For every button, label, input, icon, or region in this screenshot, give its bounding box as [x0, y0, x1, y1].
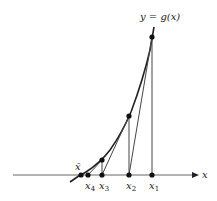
tangent-x2 [102, 116, 129, 175]
label-x2: x2 [126, 180, 136, 193]
tangent-x3 [88, 160, 102, 175]
curve-point-x2 [126, 113, 131, 118]
axis-point-x4 [85, 172, 90, 177]
diagram-canvas: x y = g(x) x̄ x4 x3 x2 x1 [0, 0, 217, 201]
newton-method-diagram: x y = g(x) x̄ x4 x3 x2 x1 [0, 0, 217, 201]
curve-point-x3 [99, 157, 104, 162]
label-x1: x1 [149, 180, 159, 193]
x-axis-arrow-icon [192, 172, 199, 178]
label-x3: x3 [99, 180, 109, 193]
axis-point-x2 [126, 172, 131, 177]
curve-label: y = g(x) [139, 11, 180, 22]
axis-point-x3 [99, 172, 104, 177]
x-axis-label: x [202, 169, 208, 180]
label-x4: x4 [85, 180, 96, 193]
curve-point-x1 [149, 34, 154, 39]
axis-point-x1 [149, 172, 154, 177]
axis-point-xbar [78, 172, 83, 177]
curve-g [70, 27, 154, 182]
label-xbar: x̄ [75, 161, 81, 172]
